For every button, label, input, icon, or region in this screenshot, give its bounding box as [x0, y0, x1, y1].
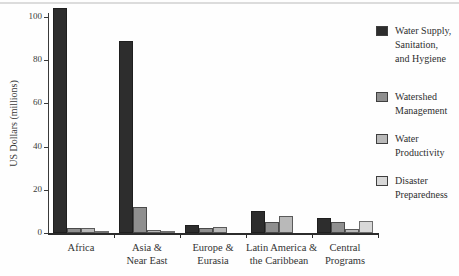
- chart-bar: [185, 225, 199, 233]
- chart-bar: [345, 229, 359, 233]
- chart-bar: [265, 222, 279, 233]
- x-axis-category-label: Europe &Eurasia: [180, 241, 246, 267]
- chart-bar: [251, 211, 265, 233]
- x-axis-tick-mark: [378, 233, 379, 238]
- y-tick-label: 100: [0, 11, 42, 21]
- chart-bar: [133, 207, 147, 233]
- x-axis-tick-mark: [180, 233, 181, 238]
- y-tick-label: 20: [0, 184, 42, 194]
- x-axis-tick-mark: [312, 233, 313, 238]
- y-axis-title: US Dollars (millions): [8, 59, 19, 189]
- y-tick-label: 40: [0, 141, 42, 151]
- chart-bar: [81, 228, 95, 233]
- x-axis-category-label: Africa: [48, 241, 114, 254]
- chart-bar: [279, 216, 293, 233]
- chart-bar: [147, 230, 161, 233]
- chart-bar: [53, 8, 67, 233]
- legend-swatch: [376, 92, 388, 102]
- x-axis-category-label: Latin America &the Caribbean: [246, 241, 312, 267]
- plot-area: [48, 0, 378, 233]
- legend-item: WaterProductivity: [376, 132, 458, 160]
- legend-swatch: [376, 134, 388, 144]
- legend-item: WatershedManagement: [376, 90, 458, 118]
- x-axis-category-label: Asia &Near East: [114, 241, 180, 267]
- y-tick-label: 60: [0, 97, 42, 107]
- y-tick-mark: [44, 233, 48, 234]
- chart-bar: [67, 228, 81, 233]
- chart-bar: [317, 218, 331, 233]
- chart-bar: [119, 41, 133, 233]
- legend-item: DisasterPreparedness: [376, 174, 458, 202]
- x-axis-category-label: CentralPrograms: [312, 241, 378, 267]
- legend-label: DisasterPreparedness: [395, 174, 448, 202]
- chart-bar: [213, 227, 227, 233]
- chart-bar: [199, 228, 213, 233]
- bar-chart-figure: US Dollars (millions) 020406080100 Afric…: [0, 0, 459, 276]
- legend-label: Water Supply,Sanitation,and Hygiene: [395, 24, 451, 66]
- x-axis-tick-mark: [114, 233, 115, 238]
- legend-label: WatershedManagement: [395, 90, 447, 118]
- y-tick-label: 80: [0, 54, 42, 64]
- legend-swatch: [376, 176, 388, 186]
- legend-item: Water Supply,Sanitation,and Hygiene: [376, 24, 458, 66]
- legend-swatch: [376, 26, 388, 36]
- legend: Water Supply,Sanitation,and HygieneWater…: [376, 24, 458, 216]
- y-tick-label: 0: [0, 227, 42, 237]
- legend-label: WaterProductivity: [395, 132, 444, 160]
- chart-bar: [161, 231, 175, 233]
- x-axis-line: [48, 233, 378, 235]
- chart-bar: [95, 231, 109, 233]
- chart-bar: [359, 221, 373, 233]
- x-axis-tick-mark: [246, 233, 247, 238]
- chart-bar: [331, 222, 345, 233]
